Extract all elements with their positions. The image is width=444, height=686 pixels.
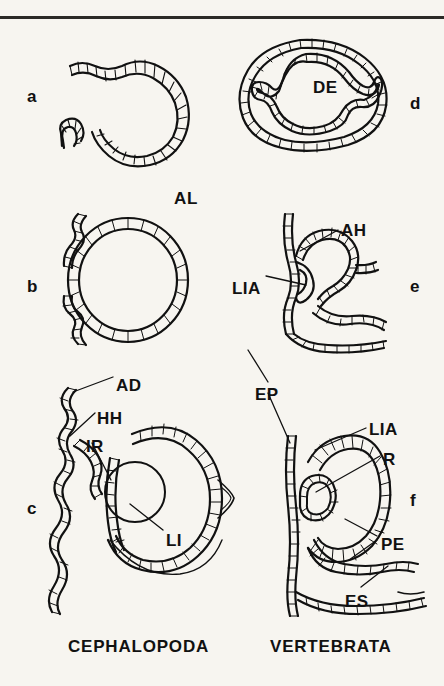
panel-f-drawing [285,435,426,616]
label-li: LI [166,532,182,549]
panel-b-drawing [63,214,188,345]
label-lia-f: LIA [369,421,398,438]
label-de: DE [313,79,337,96]
group-title-cephalopoda: CEPHALOPODA [68,638,209,655]
label-al: AL [174,190,198,207]
panel-letter-f: f [410,492,416,509]
leader-ad [73,377,113,392]
label-r: R [383,451,396,468]
label-es: ES [345,593,368,610]
panel-letter-d: d [410,95,420,112]
leader-ah [300,230,338,251]
leader-es [361,566,388,587]
panel-letter-b: b [27,278,37,295]
label-hh: HH [97,410,122,427]
figure-root: a b c d e f AL DE AH LIA AD HH IR LI EP … [0,0,444,686]
label-ad: AD [116,377,141,394]
leader-lia-f [315,428,366,450]
panel-c-drawing [49,388,234,614]
label-pe: PE [381,536,404,553]
panel-letter-c: c [27,500,36,517]
label-ah: AH [341,222,366,239]
leader-li [130,504,163,530]
label-lia-e: LIA [232,280,261,297]
leader-ep-up [248,350,268,382]
panel-letter-e: e [410,278,419,295]
panel-a-drawing [60,60,189,166]
figure-drawing [0,0,444,686]
panel-letter-a: a [27,88,36,105]
leader-hh [70,413,95,436]
group-title-vertebrata: VERTEBRATA [270,638,392,655]
label-ir: IR [86,438,104,455]
label-ep: EP [255,386,278,403]
